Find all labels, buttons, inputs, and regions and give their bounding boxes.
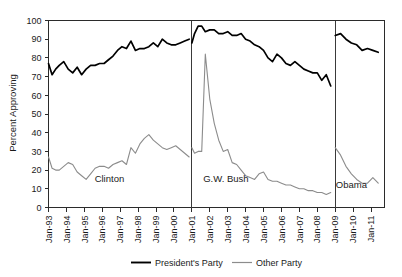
y-axis-title-label: Percent Approving (7, 74, 18, 152)
y-tick-label: 10 (31, 184, 41, 194)
era-label-bush: G.W. Bush (203, 173, 248, 184)
x-tick-label: Jan-00 (169, 216, 179, 244)
x-tick-label: Jan-98 (133, 216, 143, 244)
era-label-clinton: Clinton (95, 173, 125, 184)
y-tick-label: 50 (31, 109, 41, 119)
y-tick-label: 30 (31, 147, 41, 157)
y-tick-label: 100 (26, 16, 41, 26)
x-tick-label: Jan-08 (313, 216, 323, 244)
x-tick-label: Jan-10 (348, 216, 358, 244)
era-label-obama: Obama (336, 179, 368, 190)
x-tick-label: Jan-02 (205, 216, 215, 244)
chart-canvas: Percent Approving 0102030405060708090100… (0, 0, 402, 277)
x-tick-label: Jan-04 (241, 216, 251, 244)
x-tick-label: Jan-99 (151, 216, 161, 244)
y-tick-label: 90 (31, 34, 41, 44)
x-tick-label: Jan-11 (366, 216, 376, 243)
y-tick-label: 80 (31, 53, 41, 63)
x-tick-label: Jan-93 (44, 216, 54, 244)
approval-chart: Percent Approving 0102030405060708090100… (0, 0, 402, 277)
x-tick-label: Jan-05 (259, 216, 269, 244)
chart-background (0, 0, 402, 277)
y-tick-label: 0 (36, 203, 41, 213)
legend-label-presidents-party: President's Party (155, 258, 223, 268)
x-tick-label: Jan-95 (80, 216, 90, 244)
x-tick-label: Jan-96 (97, 216, 107, 244)
x-tick-label: Jan-94 (62, 216, 72, 244)
y-axis-title: Percent Approving (7, 74, 18, 152)
x-tick-label: Jan-03 (223, 216, 233, 244)
y-tick-label: 20 (31, 165, 41, 175)
x-tick-label: Jan-06 (277, 216, 287, 244)
legend-label-other-party: Other Party (256, 258, 303, 268)
x-tick-label: Jan-09 (330, 216, 340, 244)
x-tick-label: Jan-97 (115, 216, 125, 244)
chart-legend: President's Party Other Party (131, 258, 303, 268)
y-tick-label: 40 (31, 128, 41, 138)
y-tick-label: 70 (31, 72, 41, 82)
x-tick-label: Jan-01 (187, 216, 197, 244)
y-tick-label: 60 (31, 91, 41, 101)
x-tick-label: Jan-07 (295, 216, 305, 244)
